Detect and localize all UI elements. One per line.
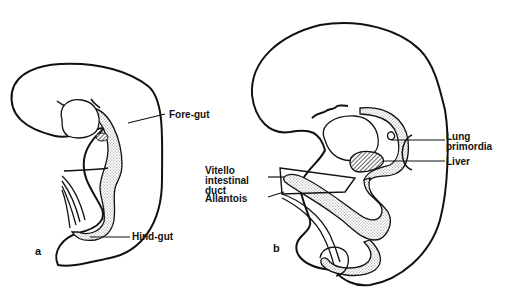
panel-label-b: b [273, 242, 280, 254]
label-lung-primordia: Lung primordia [446, 132, 492, 152]
panel-label-a: a [35, 245, 41, 257]
label-liver: Liver [446, 157, 470, 167]
gut-a [61, 100, 122, 241]
label-fore-gut: Fore-gut [169, 110, 210, 120]
gut-b [280, 108, 412, 276]
label-hind-gut: Hind-gut [132, 232, 173, 242]
embryo-gut-diagram [0, 0, 507, 294]
label-vitello-intestinal-duct: Vitello intestinal duct [205, 166, 249, 196]
label-allantois: Allantois [205, 194, 247, 204]
